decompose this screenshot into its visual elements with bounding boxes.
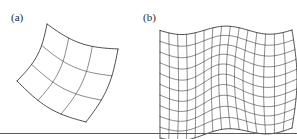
mesh-grid-line bbox=[169, 33, 170, 139]
mesh-grid-line bbox=[160, 85, 297, 102]
mesh-grid-line bbox=[283, 32, 285, 131]
mesh-grid-line bbox=[178, 34, 179, 139]
mesh-grid-line bbox=[253, 33, 257, 134]
mesh-grid-line bbox=[211, 28, 213, 132]
mesh-grid-line bbox=[195, 33, 196, 138]
mesh-grid-line bbox=[264, 34, 266, 134]
mesh-grid-line bbox=[219, 26, 222, 129]
mesh-boundary-line bbox=[160, 26, 292, 34]
footer-divider bbox=[0, 133, 297, 134]
mesh-grid-line bbox=[226, 26, 230, 128]
mesh-grid-line bbox=[160, 54, 296, 69]
mesh-boundary-line bbox=[292, 30, 297, 128]
mesh-grid-line bbox=[186, 34, 187, 139]
figure-container: (a) (b) bbox=[0, 0, 297, 139]
mesh-grid-line bbox=[160, 64, 297, 80]
mesh-grid-line bbox=[243, 30, 248, 131]
refined-mesh-diagram bbox=[0, 0, 297, 139]
